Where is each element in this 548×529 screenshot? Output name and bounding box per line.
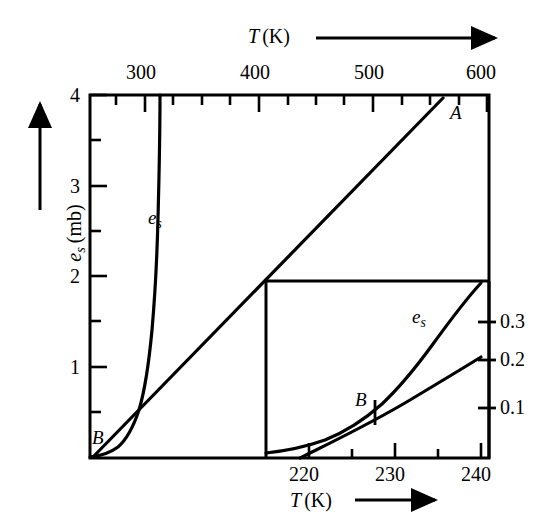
left-tick-label-3: 3: [70, 176, 80, 196]
inset-right-tick-label-02: 0.2: [500, 349, 525, 369]
top-tick-label-600: 600: [466, 62, 496, 82]
top-axis-unit: (K): [262, 25, 290, 47]
point-b-label-main: B: [92, 428, 104, 447]
main-es-curve-label: es: [148, 208, 162, 231]
top-axis-symbol: T: [248, 25, 259, 47]
inset-right-tick-label-01: 0.1: [500, 397, 525, 417]
inset-right-axis-ticks: [478, 322, 496, 408]
top-axis-title: T(K): [248, 26, 290, 46]
left-tick-label-4: 4: [70, 85, 80, 105]
figure-container: T(K) 300 400 500 600 es(mb) 4 3 2 1 es A…: [0, 0, 548, 529]
left-axis-unit: (mb): [63, 204, 85, 243]
left-axis-subscript: s: [72, 247, 88, 253]
inset-bottom-tick-label-220: 220: [289, 464, 319, 484]
left-axis-symbol: e: [63, 253, 85, 262]
inset-es-curve-label: es: [412, 307, 426, 330]
inset-plot-frame: [266, 281, 489, 458]
top-tick-label-300: 300: [126, 62, 156, 82]
point-a-label: A: [450, 103, 462, 122]
inset-bottom-tick-label-230: 230: [375, 464, 405, 484]
inset-bottom-tick-label-240: 240: [461, 464, 491, 484]
main-chord-line-AB: [93, 98, 443, 457]
inset-axis-title: T(K): [290, 490, 332, 510]
inset-axis-symbol: T: [290, 489, 301, 511]
inset-bottom-axis-ticks: [309, 443, 481, 458]
top-tick-label-400: 400: [240, 62, 270, 82]
inset-right-tick-label-03: 0.3: [500, 311, 525, 331]
main-plot-frame: [90, 95, 489, 458]
left-tick-label-1: 1: [70, 357, 80, 377]
inset-chord-line: [300, 357, 481, 458]
left-tick-label-2: 2: [70, 266, 80, 286]
top-tick-label-500: 500: [354, 62, 384, 82]
inset-axis-unit: (K): [304, 489, 332, 511]
inset-es-curve: [266, 283, 481, 453]
point-b-label-inset: B: [355, 390, 367, 409]
